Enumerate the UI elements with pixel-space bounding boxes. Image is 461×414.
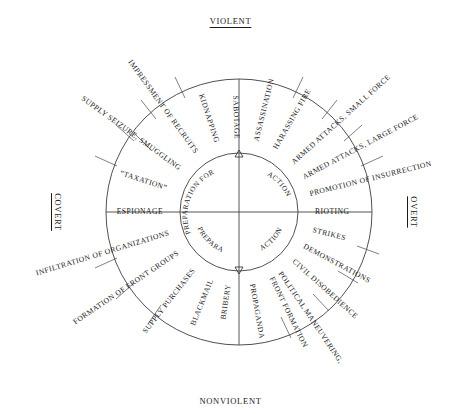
ring-item-label: PROPAGANDA — [248, 283, 267, 339]
diagram-canvas: PREPARATION FOR ACTION PREPARATION FOR A… — [0, 0, 461, 414]
ring-item-label: SABOTAGE — [231, 95, 242, 139]
ring-item-label: “TAXATION” — [119, 168, 168, 192]
diagram-structure: PREPARATION FOR ACTION PREPARATION FOR A… — [0, 0, 433, 365]
axis-label-covert: COVERT — [53, 193, 63, 231]
ring-item-label: ESPIONAGE — [117, 207, 163, 216]
ring-item-label: RIOTING — [315, 207, 349, 216]
ring-item-label: ASSASSINATION — [252, 77, 276, 142]
ring-item-label: STRIKES — [312, 225, 347, 242]
inner-label-lower-left: PREPARATION FOR — [0, 0, 225, 254]
inner-label-lower-right: ACTION — [258, 226, 284, 252]
arc-covert-violent — [106, 79, 239, 212]
axis-label-nonviolent: NONVIOLENT — [0, 396, 461, 406]
axis-label-violent: VIOLENT — [0, 16, 461, 26]
ring-item-label: BLACKMAIL — [188, 278, 215, 327]
inner-label-upper-right: ACTION — [266, 170, 293, 198]
arc-covert-nonviolent — [106, 212, 239, 345]
ring-item-label: KIDNAPPING — [197, 93, 221, 144]
inner-label-upper-left: PREPARATION FOR — [181, 168, 216, 236]
ring-item-label: BRIBERY — [219, 284, 233, 321]
axis-label-overt: OVERT — [409, 196, 419, 227]
radial-diagram: PREPARATION FOR ACTION PREPARATION FOR A… — [0, 0, 461, 414]
ring-item-label: HARASSING FIRE — [271, 87, 313, 150]
